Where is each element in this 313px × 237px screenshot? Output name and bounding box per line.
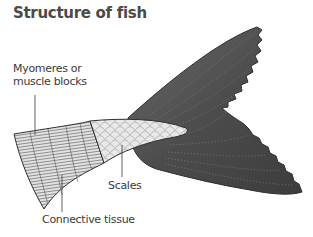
myomeres-label-line1: Myomeres or [13, 62, 87, 75]
connective-tissue-label: Connective tissue [42, 213, 135, 226]
fish-tail-illustration [0, 0, 313, 237]
muscle-blocks-section [14, 121, 104, 209]
myomeres-label-line2: muscle blocks [13, 75, 87, 88]
caudal-fin [128, 27, 302, 194]
scales-label: Scales [108, 179, 142, 192]
myomeres-label: Myomeres or muscle blocks [13, 62, 87, 88]
